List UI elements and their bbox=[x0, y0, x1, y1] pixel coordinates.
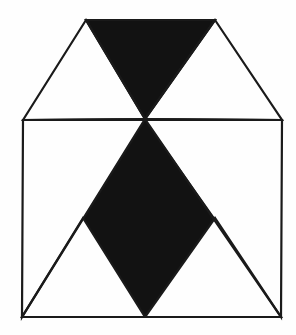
figure-canvas bbox=[0, 0, 296, 335]
geometric-figure bbox=[0, 0, 296, 335]
